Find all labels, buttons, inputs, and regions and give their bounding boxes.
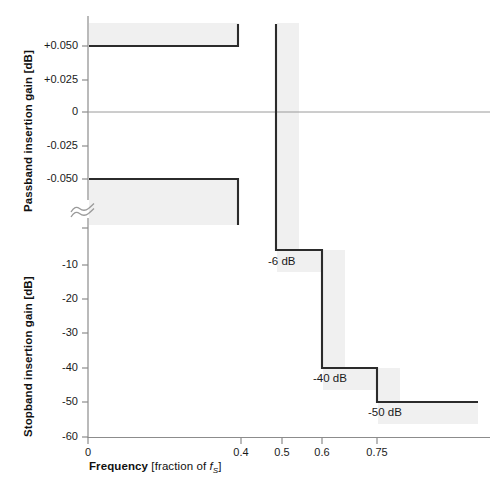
frequency-axis-title-strong: Frequency (89, 460, 148, 472)
shade-transition (277, 23, 299, 250)
y-tick-label-minus-30: -30 (28, 326, 78, 338)
shade-upper-passband (89, 23, 239, 46)
shade-step-0p75 (378, 368, 400, 402)
y-tick-label-plus-0p025: +0.025 (18, 73, 78, 85)
y-tick-label-minus-10: -10 (28, 258, 78, 270)
shade-lower-passband (89, 179, 239, 225)
stopband-mask-curve (276, 24, 478, 402)
minus-50-db-label: -50 dB (368, 406, 402, 418)
x-tick-label-0p5: 0.5 (262, 446, 302, 458)
y-tick-label-plus-0p050: +0.050 (18, 39, 78, 51)
filter-mask-figure: Passband insertion gain [dB] Stopband in… (0, 0, 498, 498)
frequency-axis-title-rest: [fraction of (148, 460, 209, 472)
shade-step-0p6 (323, 250, 345, 368)
minus-40-db-label: -40 dB (313, 372, 347, 384)
y-tick-label-minus-50: -50 (28, 395, 78, 407)
y-tick-label-minus-20: -20 (28, 292, 78, 304)
x-tick-label-0p4: 0.4 (221, 446, 261, 458)
frequency-axis-title: Frequency [fraction of fS] (89, 460, 222, 475)
y-tick-label-minus-40: -40 (28, 361, 78, 373)
x-tick-label-0p75: 0.75 (355, 446, 399, 458)
frequency-axis-title-close: ] (218, 460, 221, 472)
x-tick-label-0: 0 (68, 446, 108, 458)
minus-6-db-label: -6 dB (268, 255, 296, 267)
y-tick-label-minus-0p025: -0.025 (18, 139, 78, 151)
y-tick-label-minus-60: -60 (28, 430, 78, 442)
mask-shading (89, 23, 478, 424)
y-tick-label-minus-0p050: -0.050 (18, 172, 78, 184)
x-tick-label-0p6: 0.6 (302, 446, 342, 458)
y-tick-label-zero: 0 (18, 105, 78, 117)
